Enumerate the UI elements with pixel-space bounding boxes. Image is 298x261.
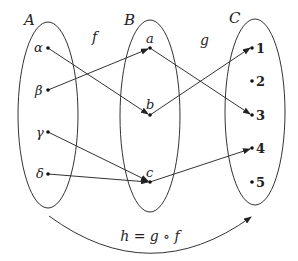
map-g-label: g — [200, 32, 209, 48]
point-delta — [46, 172, 50, 176]
label-delta: δ — [36, 166, 44, 181]
point-alpha — [46, 46, 50, 50]
function-composition-diagram: A B C f g α β γ δ a b c 1 2 3 4 5 h = g … — [0, 0, 298, 261]
label-5: 5 — [256, 175, 265, 190]
point-c — [148, 180, 152, 184]
label-3: 3 — [256, 108, 265, 123]
point-3 — [250, 113, 254, 117]
set-c-ellipse — [225, 19, 285, 205]
set-c-label: C — [229, 9, 241, 27]
label-4: 4 — [256, 141, 265, 156]
point-beta — [46, 88, 50, 92]
set-a-ellipse — [18, 22, 78, 208]
label-b: b — [146, 97, 154, 112]
label-beta: β — [34, 83, 43, 98]
point-b — [148, 113, 152, 117]
composition-label: h = g ∘ f — [120, 228, 182, 244]
set-b-label: B — [123, 11, 135, 29]
edge-beta-to-a — [48, 49, 148, 90]
point-5 — [250, 180, 254, 184]
set-a-label: A — [22, 11, 35, 29]
label-1: 1 — [256, 41, 265, 56]
point-a — [148, 46, 152, 50]
point-2 — [250, 79, 254, 83]
edge-gamma-to-c — [48, 132, 148, 181]
map-f-label: f — [91, 29, 100, 45]
label-gamma: γ — [36, 125, 44, 140]
label-c: c — [146, 165, 154, 180]
edge-delta-to-c — [48, 174, 148, 182]
point-gamma — [46, 130, 50, 134]
label-2: 2 — [256, 74, 265, 89]
edge-alpha-to-b — [48, 48, 148, 114]
point-1 — [250, 46, 254, 50]
edge-c-to-4 — [150, 149, 250, 182]
label-alpha: α — [34, 40, 43, 55]
point-4 — [250, 146, 254, 150]
label-a: a — [146, 31, 154, 46]
